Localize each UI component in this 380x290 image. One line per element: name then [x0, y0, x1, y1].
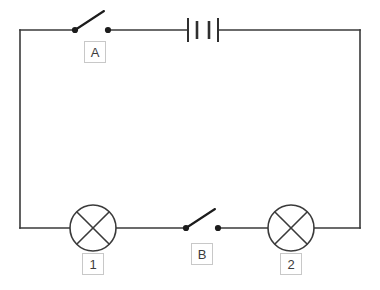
switch-a-right-terminal-dot — [105, 27, 111, 33]
label-lamp-1: 1 — [82, 253, 104, 275]
switch-b-symbol[interactable] — [183, 209, 221, 231]
switch-b-right-terminal-dot — [215, 225, 221, 231]
label-switch-a: A — [84, 41, 106, 63]
switch-b-lever[interactable] — [186, 209, 215, 228]
circuit-diagram: A B 1 2 — [0, 0, 380, 290]
switch-a-left-terminal-dot — [72, 27, 78, 33]
circuit-schematic-canvas — [0, 0, 380, 290]
battery-symbol — [188, 18, 218, 42]
lamp-2-symbol — [268, 205, 314, 251]
switch-a-symbol[interactable] — [72, 11, 111, 33]
switch-a-lever[interactable] — [75, 11, 104, 30]
circuit-loop-wires — [20, 30, 360, 228]
switch-b-left-terminal-dot — [183, 225, 189, 231]
lamp-1-symbol — [70, 205, 116, 251]
label-switch-b: B — [191, 243, 213, 265]
label-lamp-2: 2 — [280, 253, 302, 275]
